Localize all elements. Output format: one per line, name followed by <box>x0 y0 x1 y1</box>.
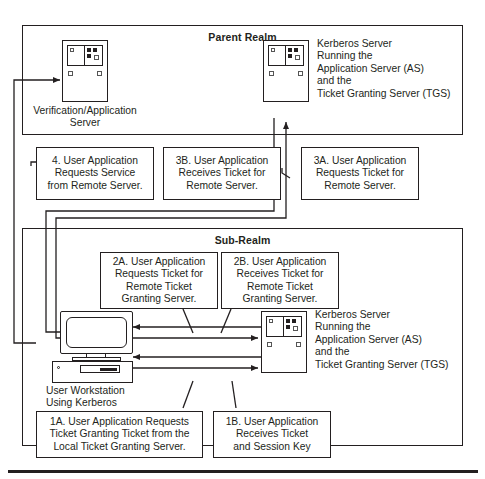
sub-kerberos-server-icon <box>261 311 307 373</box>
kerberos-diagram-canvas: Parent Realm Verification/Application Se… <box>0 0 485 479</box>
user-workstation-label: User Workstation Using Kerberos <box>46 385 166 410</box>
callout-step-1b: 1B. User Application Receives Ticket and… <box>213 411 331 458</box>
parent-kerberos-server-icon <box>263 40 309 102</box>
parent-kerberos-server-label: Kerberos Server Running the Application … <box>317 38 477 100</box>
leader-step3a <box>282 168 290 178</box>
verification-application-server-icon <box>62 40 108 102</box>
callout-step-4: 4. User Application Requests Service fro… <box>36 147 154 200</box>
callout-step-2a: 2A. User Application Requests Ticket for… <box>100 252 218 309</box>
callout-step-3a: 3A. User Application Requests Ticket for… <box>301 147 419 200</box>
sub-kerberos-server-label: Kerberos Server Running the Application … <box>315 309 475 371</box>
callout-step-3b: 3B. User Application Receives Ticket for… <box>163 147 281 200</box>
bottom-rule <box>8 470 478 473</box>
sub-realm-title: Sub-Realm <box>23 234 462 246</box>
callout-step-1a: 1A. User Application Requests Ticket Gra… <box>36 411 203 458</box>
verification-application-server-label: Verification/Application Server <box>10 105 160 130</box>
callout-step-2b: 2B. User Application Receives Ticket for… <box>221 252 339 309</box>
